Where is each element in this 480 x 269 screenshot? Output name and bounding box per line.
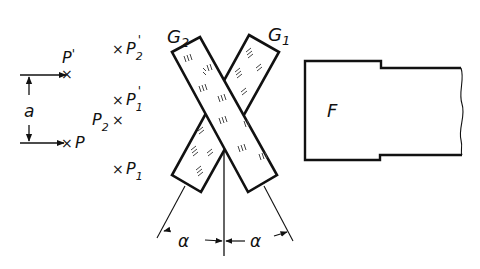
object-label-f: F [327, 100, 338, 121]
object-f: F [305, 61, 463, 160]
label-p1-prime: P1' [126, 84, 143, 114]
marker-x-icon: × [112, 112, 124, 128]
marker-x-icon: × [112, 161, 124, 177]
marker-x-icon: × [112, 92, 124, 108]
marker-x-icon: × [112, 41, 124, 57]
point-p1: × P1 [112, 159, 143, 183]
point-p2: × P2 [92, 110, 124, 134]
point-p2-prime: × P2' [112, 33, 143, 63]
point-p: × P [61, 133, 85, 152]
label-p2-prime: P2' [126, 33, 143, 63]
angle-leg-right [264, 186, 293, 241]
angle-label: α [250, 231, 261, 251]
label-p: P [75, 133, 85, 152]
point-p-prime: × P' [61, 47, 75, 82]
break-line [460, 68, 463, 155]
label-p1: P1 [126, 159, 143, 183]
angle-alpha-right: α [226, 231, 287, 251]
plate-label-g1: G1 [268, 24, 290, 48]
angle-label: α [178, 231, 189, 251]
marker-x-icon: × [61, 66, 73, 82]
marker-x-icon: × [61, 135, 73, 151]
label-p-prime: P' [62, 47, 75, 67]
diagram-canvas: a × P' × P × P2' × P1' × P2 × P1 α α [0, 0, 480, 269]
point-p1-prime: × P1' [112, 84, 143, 114]
dimension-label-a: a [24, 101, 34, 121]
plate-label-g2: G2 [167, 26, 189, 50]
label-p2: P2 [92, 110, 109, 134]
dimension-a: a [20, 75, 66, 143]
angle-alpha-left: α [164, 230, 222, 251]
